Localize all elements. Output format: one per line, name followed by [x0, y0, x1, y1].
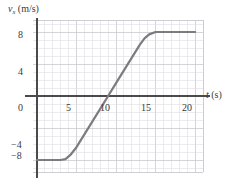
y-tick-label-8: 8 — [18, 30, 23, 40]
y-axis-title: vx (m/s) — [8, 4, 39, 16]
y-tick-label-4: 4 — [18, 67, 23, 77]
y-tick-label-minus-4: −4 — [11, 140, 22, 150]
y-tick-label-0: 0 — [18, 103, 23, 113]
x-tick-label-15: 15 — [141, 103, 151, 113]
x-axis-units: (s) — [211, 89, 222, 100]
x-tick-label-5: 5 — [66, 103, 71, 113]
y-axis-subscript: x — [12, 8, 15, 15]
velocity-time-chart: vx (m/s) t (s) 8 4 0 −4 −8 5 10 15 20 — [0, 0, 230, 183]
x-axis-title: t (s) — [206, 90, 222, 100]
chart-canvas — [0, 0, 230, 183]
y-tick-label-minus-8: −8 — [11, 151, 22, 161]
x-tick-label-20: 20 — [182, 103, 192, 113]
y-axis-units: (m/s) — [18, 3, 39, 14]
x-tick-label-10: 10 — [100, 103, 110, 113]
x-axis-symbol: t — [206, 89, 209, 100]
